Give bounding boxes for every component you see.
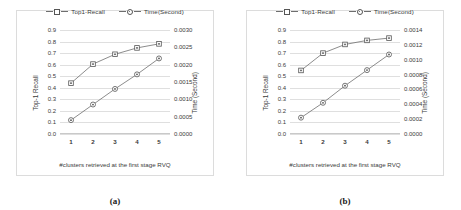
y-axis-tick-label-right: 0.0010	[404, 57, 422, 63]
chart-panel-b: Top1-Recall Time(Second) Top-1 Recall Ti…	[230, 0, 460, 210]
plot-wrap-b: Top-1 Recall Time (Second) 0.00.10.20.30…	[246, 10, 444, 176]
y-axis-tick-label-left: 0.0	[278, 131, 286, 137]
x-axis-title-a: #clusters retrieved at the first stage R…	[16, 161, 214, 168]
y-axis-tick-label-right: 0.0020	[174, 62, 192, 68]
y-axis-tick-label-right: 0.0025	[174, 44, 192, 50]
x-axis-tick-label: 2	[321, 138, 324, 145]
y-axis-tick-label-left: 0.1	[278, 119, 286, 125]
circle-marker-center	[388, 54, 390, 56]
y-axis-tick-label-left: 0.2	[48, 108, 56, 114]
x-axis-tick-label: 3	[113, 138, 116, 145]
circle-marker-center	[300, 117, 302, 119]
y-axis-tick-label-left: 0.4	[48, 85, 56, 91]
y-axis-title-left-a: Top-1 Recall	[32, 75, 39, 111]
y-axis-tick-label-left: 0.9	[48, 27, 56, 33]
y-axis-tick-label-right: 0.0000	[404, 131, 422, 137]
y-axis-tick-label-left: 0.8	[278, 39, 286, 45]
y-axis-title-right-a: Time (Second)	[192, 72, 199, 114]
panel-caption-a: (a)	[0, 196, 230, 206]
y-axis-tick-label-right: 0.0008	[404, 72, 422, 78]
plot-wrap-a: Top-1 Recall Time (Second) 0.00.10.20.30…	[16, 10, 214, 176]
y-axis-tick-label-left: 0.7	[278, 50, 286, 56]
chart-panel-a: Top1-Recall Time(Second) Top-1 Recall Ti…	[0, 0, 230, 210]
x-axis-title-b: #clusters retrieved at the first stage R…	[246, 161, 444, 168]
circle-marker-center	[344, 85, 346, 87]
gridline	[290, 134, 400, 135]
y-axis-tick-label-right: 0.0002	[404, 116, 422, 122]
x-axis-tick-label: 2	[91, 138, 94, 145]
circle-marker-center	[158, 58, 160, 60]
circle-marker-center	[92, 104, 94, 106]
y-axis-tick-label-right: 0.0012	[404, 42, 422, 48]
circle-marker-center	[114, 88, 116, 90]
y-axis-tick-label-left: 0.5	[278, 73, 286, 79]
circle-marker-center	[322, 102, 324, 104]
y-axis-tick-label-left: 0.5	[48, 73, 56, 79]
x-axis-tick-label: 5	[387, 138, 390, 145]
square-marker-center	[114, 53, 116, 55]
y-axis-tick-label-left: 0.3	[48, 96, 56, 102]
circle-marker-center	[136, 73, 138, 75]
circle-marker-center	[366, 69, 368, 71]
y-axis-tick-label-left: 0.2	[278, 108, 286, 114]
x-axis-tick-label: 4	[365, 138, 368, 145]
y-axis-tick-label-right: 0.0005	[174, 114, 192, 120]
plot-area-b: 0.00.10.20.30.40.50.60.70.80.9 0.00000.0…	[290, 30, 400, 134]
y-axis-tick-label-right: 0.0030	[174, 27, 192, 33]
y-axis-title-right-b: Time (Second)	[422, 72, 429, 114]
y-axis-tick-label-left: 0.1	[48, 119, 56, 125]
y-axis-tick-label-left: 0.3	[278, 96, 286, 102]
square-marker-center	[366, 40, 368, 42]
series-layer-a	[60, 30, 170, 134]
panel-caption-b: (b)	[230, 196, 460, 206]
y-axis-tick-label-right: 0.0015	[174, 79, 192, 85]
series-line	[71, 44, 159, 83]
y-axis-tick-label-left: 0.6	[48, 62, 56, 68]
square-marker-center	[344, 44, 346, 46]
circle-marker-center	[70, 119, 72, 121]
y-axis-tick-label-right: 0.0010	[174, 96, 192, 102]
square-marker-center	[388, 37, 390, 39]
square-marker-center	[70, 82, 72, 84]
y-axis-tick-label-right: 0.0000	[174, 131, 192, 137]
plot-area-a: 0.00.10.20.30.40.50.60.70.80.9 0.00000.0…	[60, 30, 170, 134]
x-axis-tick-label: 1	[299, 138, 302, 145]
square-marker-center	[300, 70, 302, 72]
square-marker-center	[92, 63, 94, 65]
y-axis-tick-label-right: 0.0004	[404, 101, 422, 107]
square-marker-center	[322, 52, 324, 54]
x-axis-tick-label: 4	[135, 138, 138, 145]
x-axis-tick-label: 3	[343, 138, 346, 145]
y-axis-tick-label-right: 0.0006	[404, 86, 422, 92]
y-axis-tick-label-right: 0.0014	[404, 27, 422, 33]
y-axis-title-left-b: Top-1 Recall	[262, 75, 269, 111]
series-layer-b	[290, 30, 400, 134]
y-axis-tick-label-left: 0.4	[278, 85, 286, 91]
y-axis-tick-label-left: 0.7	[48, 50, 56, 56]
x-axis-tick-label: 5	[157, 138, 160, 145]
x-axis-tick-label: 1	[69, 138, 72, 145]
square-marker-center	[158, 43, 160, 45]
y-axis-tick-label-left: 0.0	[48, 131, 56, 137]
gridline	[60, 134, 170, 135]
y-axis-tick-label-left: 0.6	[278, 62, 286, 68]
square-marker-center	[136, 47, 138, 49]
y-axis-tick-label-left: 0.8	[48, 39, 56, 45]
figure-container: Top1-Recall Time(Second) Top-1 Recall Ti…	[0, 0, 461, 210]
y-axis-tick-label-left: 0.9	[278, 27, 286, 33]
